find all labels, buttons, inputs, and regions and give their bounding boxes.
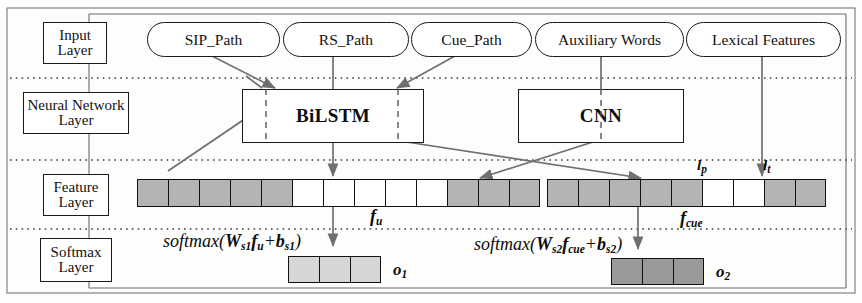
- input-node-sip-path-label: SIP_Path: [185, 31, 243, 49]
- module-bilstm-label: BiLSTM: [296, 105, 370, 127]
- softmax-output-bar-o2: [611, 258, 704, 285]
- softmax-output-label-o2: o2: [716, 262, 730, 282]
- feature-f-u-cell-4: [261, 179, 292, 207]
- feature-f-cue-cell-1: [578, 179, 609, 207]
- feature-f-u-cell-0: [137, 179, 168, 207]
- feature-f-cue-cell-0: [547, 179, 578, 207]
- softmax-formula-o2: softmax(Ws2fcue+bs2): [474, 234, 622, 255]
- input-node-lexical-features-label: Lexical Features: [712, 31, 815, 49]
- softmax-o1-cell-2: [350, 256, 381, 283]
- feature-tick-l-p: lp: [697, 157, 707, 175]
- feature-f-cue-cell-5: [702, 179, 733, 207]
- input-node-rs-path[interactable]: RS_Path: [283, 22, 409, 57]
- arrow-sip-to-bilstm: [212, 56, 275, 88]
- feature-f-u-cell-12: [509, 179, 540, 207]
- feature-bar-f-u-label: fu: [370, 206, 382, 227]
- module-cnn[interactable]: CNN: [518, 89, 684, 143]
- feature-f-u-cell-5: [292, 179, 323, 207]
- softmax-o2-cell-2: [673, 258, 704, 285]
- feature-f-u-cell-7: [354, 179, 385, 207]
- layer-label-softmax-text: Softmax Layer: [51, 245, 102, 276]
- architecture-diagram: Input Layer Neural Network Layer Feature…: [0, 0, 862, 303]
- feature-f-u-cell-11: [478, 179, 509, 207]
- input-node-sip-path[interactable]: SIP_Path: [147, 22, 280, 57]
- input-node-cue-path[interactable]: Cue_Path: [411, 22, 532, 57]
- arrow-bilstm-to-fcue: [400, 141, 641, 178]
- feature-f-cue-cell-2: [609, 179, 640, 207]
- feature-bar-f-cue: [547, 179, 826, 207]
- layer-label-feature-text: Feature Layer: [54, 180, 99, 211]
- feature-f-cue-cell-3: [640, 179, 671, 207]
- layer-label-feature: Feature Layer: [43, 174, 109, 216]
- layer-label-input-text: Input Layer: [58, 28, 93, 59]
- feature-f-cue-cell-7: [764, 179, 795, 207]
- input-node-auxiliary-words[interactable]: Auxiliary Words: [535, 22, 684, 57]
- module-bilstm[interactable]: BiLSTM: [242, 89, 424, 143]
- softmax-formula-o1: softmax(Ws1fu+bs1): [163, 231, 301, 252]
- softmax-output-bar-o1: [288, 256, 381, 283]
- layer-label-input: Input Layer: [43, 22, 107, 64]
- softmax-o1-cell-0: [288, 256, 319, 283]
- module-cnn-label: CNN: [580, 105, 622, 127]
- feature-bar-f-u: [137, 179, 540, 207]
- layer-label-neural: Neural Network Layer: [23, 92, 129, 134]
- softmax-o2-cell-1: [642, 258, 673, 285]
- feature-bar-f-cue-label: fcue: [680, 208, 703, 229]
- softmax-o1-cell-1: [319, 256, 350, 283]
- feature-f-cue-cell-6: [733, 179, 764, 207]
- input-node-auxiliary-words-label: Auxiliary Words: [558, 31, 661, 49]
- input-node-rs-path-label: RS_Path: [319, 31, 373, 49]
- input-node-lexical-features[interactable]: Lexical Features: [686, 22, 841, 57]
- layer-label-neural-text: Neural Network Layer: [27, 98, 124, 129]
- layer-label-softmax: Softmax Layer: [40, 238, 112, 282]
- feature-f-cue-cell-8: [795, 179, 826, 207]
- feature-f-u-cell-10: [447, 179, 478, 207]
- feature-f-cue-cell-4: [671, 179, 702, 207]
- feature-f-u-cell-9: [416, 179, 447, 207]
- feature-f-u-cell-3: [230, 179, 261, 207]
- feature-tick-l-t: lt: [763, 157, 770, 175]
- feature-f-u-cell-6: [323, 179, 354, 207]
- arrow-cue-to-bilstm: [397, 56, 455, 88]
- input-node-cue-path-label: Cue_Path: [441, 31, 501, 49]
- feature-f-u-cell-2: [199, 179, 230, 207]
- softmax-o2-cell-0: [611, 258, 642, 285]
- softmax-output-label-o1: o1: [393, 260, 407, 280]
- feature-f-u-cell-1: [168, 179, 199, 207]
- feature-f-u-cell-8: [385, 179, 416, 207]
